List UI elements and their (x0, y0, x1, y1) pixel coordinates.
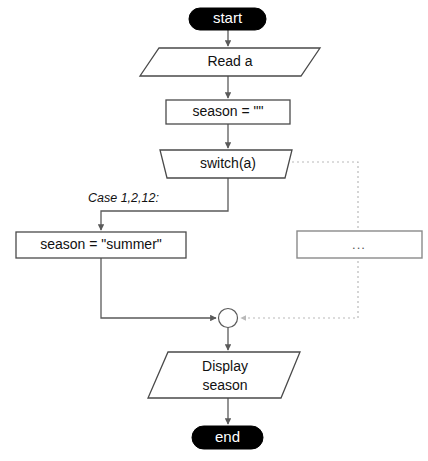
edge-label-case-branch: Case 1,2,12: (88, 191, 159, 205)
node-init[interactable]: season = "" (166, 100, 290, 124)
node-switch[interactable]: switch(a) (160, 150, 292, 178)
node-init-label: season = "" (192, 103, 263, 119)
node-other-cases[interactable]: ... (297, 231, 422, 258)
node-start[interactable]: start (189, 8, 266, 30)
node-display-label-line2: season (202, 377, 247, 393)
node-end-label: end (215, 428, 240, 445)
node-switch-label: switch(a) (200, 155, 256, 171)
node-display-label-line1: Display (202, 358, 248, 374)
node-assign-summer[interactable]: season = "summer" (16, 232, 186, 258)
node-junction[interactable] (219, 309, 238, 328)
connector-summer-to-junction (101, 258, 216, 318)
node-start-label: start (213, 9, 243, 26)
node-end[interactable]: end (192, 426, 263, 449)
node-assign-summer-label: season = "summer" (40, 236, 162, 252)
node-read-label: Read a (207, 53, 252, 69)
flowchart-canvas: start Read a season = "" switch(a) Case … (0, 0, 428, 461)
node-other-cases-label: ... (352, 237, 366, 252)
node-read[interactable]: Read a (140, 48, 320, 76)
node-display[interactable]: Display season (148, 352, 300, 398)
